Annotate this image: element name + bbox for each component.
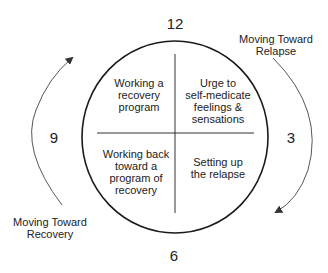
quadrant-top-right-line: feelings & bbox=[178, 101, 258, 113]
relapse-label-line: Relapse bbox=[238, 45, 314, 57]
quadrant-top-right-line: Urge to bbox=[178, 77, 258, 89]
clock-6-label: 6 bbox=[166, 248, 182, 264]
quadrant-top-right-line: self-medicate bbox=[178, 89, 258, 101]
relapse-label-line: Moving Toward bbox=[238, 33, 314, 45]
clock-3-label: 3 bbox=[283, 130, 299, 146]
quadrant-bottom-right-line: the relapse bbox=[180, 168, 256, 180]
quadrant-bottom-left-line: recovery bbox=[98, 184, 174, 196]
moving-toward-recovery-label: Moving Toward Recovery bbox=[12, 216, 88, 240]
moving-toward-relapse-label: Moving Toward Relapse bbox=[238, 33, 314, 57]
quadrant-bottom-right-line: Setting up bbox=[180, 156, 256, 168]
quadrant-bottom-left-line: Working back bbox=[98, 148, 174, 160]
quadrant-bottom-left-line: program of bbox=[98, 172, 174, 184]
clock-9-label: 9 bbox=[46, 130, 62, 146]
quadrant-top-right: Urge to self-medicate feelings & sensati… bbox=[178, 77, 258, 125]
recovery-label-line: Recovery bbox=[12, 228, 88, 240]
quadrant-top-left-line: recovery bbox=[105, 89, 173, 101]
quadrant-top-right-line: sensations bbox=[178, 113, 258, 125]
quadrant-top-left: Working a recovery program bbox=[105, 77, 173, 113]
quadrant-bottom-left: Working back toward a program of recover… bbox=[98, 148, 174, 196]
recovery-label-line: Moving Toward bbox=[12, 216, 88, 228]
quadrant-bottom-right: Setting up the relapse bbox=[180, 156, 256, 180]
quadrant-top-left-line: program bbox=[105, 101, 173, 113]
quadrant-top-left-line: Working a bbox=[105, 77, 173, 89]
clock-12-label: 12 bbox=[163, 16, 187, 32]
quadrant-bottom-left-line: toward a bbox=[98, 160, 174, 172]
